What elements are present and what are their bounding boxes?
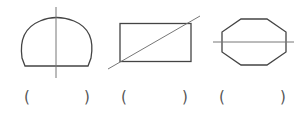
answer-3-open-paren: ( bbox=[219, 88, 225, 106]
answer-1-open-paren: ( bbox=[24, 88, 30, 106]
answer-1-close-paren: ) bbox=[84, 88, 90, 106]
dome-figure bbox=[21, 7, 92, 78]
answer-3-close-paren: ) bbox=[280, 88, 286, 106]
answer-2-open-paren: ( bbox=[121, 88, 127, 106]
answer-2-close-paren: ) bbox=[182, 88, 188, 106]
octagon-figure bbox=[213, 19, 294, 65]
figures-canvas bbox=[0, 0, 304, 113]
rectangle-figure bbox=[108, 16, 200, 69]
